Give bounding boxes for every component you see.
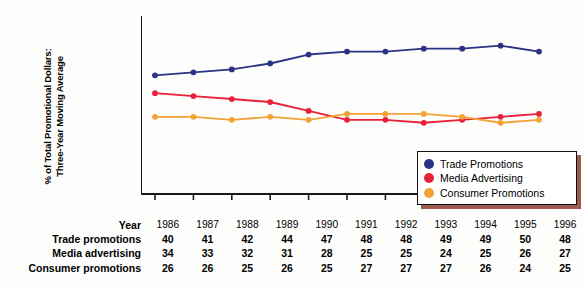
legend-label-consumer: Consumer Promotions [440,187,544,199]
table-cell: 41 [188,232,228,246]
chart-legend: Trade Promotions Media Advertising Consu… [417,151,577,205]
legend-label-media: Media Advertising [440,172,523,184]
data-point-1-1 [191,93,197,99]
table-cell: 26 [188,261,228,275]
table-year-1991: 1991 [347,218,387,232]
legend-label-trade: Trade Promotions [440,158,523,170]
table-year-1993: 1993 [426,218,466,232]
legend-swatch-icon-consumer [424,188,434,198]
data-point-0-0 [152,72,158,78]
data-point-2-6 [383,111,389,117]
table-cell: 28 [307,246,347,260]
table-row-label: Media advertising [0,246,148,260]
data-point-0-2 [229,67,235,73]
table-cell: 48 [386,232,426,246]
table-row-years: Year198619871988198919901991199219931994… [0,218,585,232]
table-cell: 27 [545,246,585,260]
table-cell: 32 [227,246,267,260]
data-point-0-3 [267,61,273,67]
table-cell: 27 [426,261,466,275]
data-table: Year198619871988198919901991199219931994… [0,218,585,275]
table-cell: 27 [347,261,387,275]
data-point-1-6 [383,117,389,123]
table-year-1988: 1988 [227,218,267,232]
legend-swatch-icon-media [424,173,434,183]
table-cell: 44 [267,232,307,246]
data-point-0-1 [191,69,197,75]
table-cell: 34 [148,246,188,260]
data-point-0-10 [536,49,542,55]
table-cell: 25 [307,261,347,275]
data-point-1-9 [498,114,504,120]
y-axis-title: % of Total Promotional Dollars: Three-Ye… [42,17,65,217]
data-point-0-7 [421,46,427,52]
data-point-0-9 [498,43,504,49]
data-point-2-5 [344,111,350,117]
table-cell: 24 [426,246,466,260]
table-cell: 25 [466,246,506,260]
table-year-1994: 1994 [466,218,506,232]
table-cell: 50 [505,232,545,246]
data-point-2-7 [421,111,427,117]
data-point-2-8 [459,114,465,120]
values-table: Year198619871988198919901991199219931994… [0,218,585,275]
table-row: Media advertising3433323128252524252627 [0,246,585,260]
table-cell: 25 [386,246,426,260]
table-cell: 31 [267,246,307,260]
table-cell: 42 [227,232,267,246]
table-year-1987: 1987 [188,218,228,232]
legend-item-trade-promotions: Trade Promotions [424,157,569,171]
data-point-0-8 [459,46,465,52]
table-cell: 33 [188,246,228,260]
table-cell: 26 [505,246,545,260]
table-cell: 26 [148,261,188,275]
legend-swatch-icon-trade [424,159,434,169]
data-point-2-4 [306,117,312,123]
table-year-1996: 1996 [545,218,585,232]
table-cell: 26 [267,261,307,275]
data-point-2-10 [536,117,542,123]
table-cell: 26 [466,261,506,275]
data-point-2-9 [498,120,504,126]
line-chart-figure: % of Total Promotional Dollars: Three-Ye… [0,0,585,286]
table-year-1990: 1990 [307,218,347,232]
table-year-1986: 1986 [148,218,188,232]
data-point-0-5 [344,49,350,55]
table-cell: 47 [307,232,347,246]
table-cell: 48 [545,232,585,246]
table-year-1989: 1989 [267,218,307,232]
table-row: Trade promotions4041424447484849495048 [0,232,585,246]
table-year-1995: 1995 [505,218,545,232]
data-point-0-4 [306,52,312,58]
table-cell: 49 [466,232,506,246]
table-cell: 40 [148,232,188,246]
table-cell: 48 [347,232,387,246]
table-year-1992: 1992 [386,218,426,232]
legend-item-consumer-promotions: Consumer Promotions [424,186,569,200]
table-cell: 25 [545,261,585,275]
table-row: Consumer promotions262625262527272726242… [0,261,585,275]
data-point-2-3 [267,114,273,120]
data-point-1-0 [152,90,158,96]
data-point-1-10 [536,111,542,117]
data-point-1-2 [229,96,235,102]
data-point-0-6 [383,49,389,55]
table-header-year: Year [0,218,148,232]
table-cell: 25 [227,261,267,275]
table-cell: 25 [347,246,387,260]
table-row-label: Trade promotions [0,232,148,246]
legend-item-media-advertising: Media Advertising [424,171,569,185]
data-point-2-0 [152,114,158,120]
data-point-1-7 [421,120,427,126]
table-cell: 49 [426,232,466,246]
data-point-1-3 [267,99,273,105]
data-point-2-2 [229,117,235,123]
table-cell: 24 [505,261,545,275]
data-point-1-4 [306,108,312,114]
data-point-2-1 [191,114,197,120]
data-point-1-5 [344,117,350,123]
table-cell: 27 [386,261,426,275]
table-row-label: Consumer promotions [0,261,148,275]
